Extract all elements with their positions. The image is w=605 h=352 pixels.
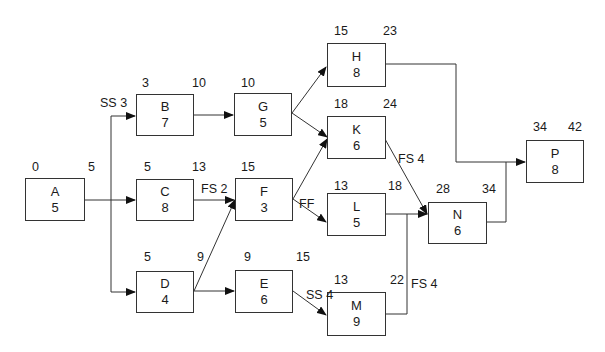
node-n-es: 28 xyxy=(436,182,450,196)
node-h-ef: 23 xyxy=(383,24,397,38)
node-b-name: B xyxy=(161,99,170,115)
node-c-es: 5 xyxy=(144,160,151,174)
arrow-h-p xyxy=(385,64,525,162)
node-e-duration: 6 xyxy=(260,292,267,308)
node-f-name: F xyxy=(260,184,268,200)
arrow-g-k xyxy=(292,113,327,137)
node-m-ef: 22 xyxy=(390,273,404,287)
node-c-ef: 13 xyxy=(192,160,206,174)
node-d-es: 5 xyxy=(144,250,151,264)
node-d: D 4 xyxy=(136,271,194,313)
node-p-ef: 42 xyxy=(568,120,582,134)
node-g-duration: 5 xyxy=(259,115,266,131)
node-h: H 8 xyxy=(327,43,386,87)
node-h-name: H xyxy=(352,49,361,65)
node-a: A 5 xyxy=(25,178,85,221)
node-l-name: L xyxy=(353,199,360,215)
node-d-name: D xyxy=(160,276,169,292)
arrow-g-h xyxy=(292,67,326,113)
node-m-duration: 9 xyxy=(353,314,360,330)
node-k-name: K xyxy=(352,122,361,138)
node-c-duration: 8 xyxy=(161,200,168,216)
node-b-ef: 10 xyxy=(192,76,206,90)
node-d-duration: 4 xyxy=(161,292,168,308)
node-d-ef: 9 xyxy=(197,250,204,264)
node-h-es: 15 xyxy=(334,24,348,38)
node-n-name: N xyxy=(453,207,462,223)
node-p-es: 34 xyxy=(533,120,547,134)
node-f-duration: 3 xyxy=(260,200,267,216)
node-f: F 3 xyxy=(235,178,293,221)
node-h-duration: 8 xyxy=(353,65,360,81)
link-label-f-l: FF xyxy=(299,197,314,211)
node-a-es: 0 xyxy=(32,160,39,174)
node-l-es: 13 xyxy=(334,179,348,193)
node-g-name: G xyxy=(258,99,268,115)
arrow-d-f xyxy=(194,200,235,291)
link-label-m-n: FS 4 xyxy=(411,277,437,291)
node-b: B 7 xyxy=(136,94,194,136)
node-k: K 6 xyxy=(327,116,386,159)
node-l: L 5 xyxy=(327,193,386,236)
node-c: C 8 xyxy=(136,179,194,221)
node-k-ef: 24 xyxy=(383,97,397,111)
link-label-k-n: FS 4 xyxy=(398,152,424,166)
node-m-es: 13 xyxy=(334,273,348,287)
node-m-name: M xyxy=(351,298,362,314)
arrow-f-k xyxy=(293,139,327,199)
node-a-ef: 5 xyxy=(88,160,95,174)
node-e: E 6 xyxy=(235,270,293,313)
node-n-duration: 6 xyxy=(454,223,461,239)
node-l-ef: 18 xyxy=(388,179,402,193)
node-e-es: 9 xyxy=(244,250,251,264)
node-a-duration: 5 xyxy=(51,200,58,216)
node-m: M 9 xyxy=(327,292,386,336)
link-label-a-b: SS 3 xyxy=(100,96,127,110)
node-e-ef: 15 xyxy=(296,250,310,264)
node-b-duration: 7 xyxy=(161,115,168,131)
node-a-name: A xyxy=(51,184,60,200)
link-label-e-m: SS 4 xyxy=(306,288,333,302)
link-label-c-f: FS 2 xyxy=(201,182,227,196)
node-g-es: 10 xyxy=(241,76,255,90)
node-k-duration: 6 xyxy=(353,138,360,154)
node-p-name: P xyxy=(551,146,560,162)
node-k-es: 18 xyxy=(334,97,348,111)
node-p: P 8 xyxy=(526,140,584,183)
node-c-name: C xyxy=(160,184,169,200)
node-b-es: 3 xyxy=(142,76,149,90)
node-g: G 5 xyxy=(234,93,292,136)
node-p-duration: 8 xyxy=(551,162,558,178)
node-n-ef: 34 xyxy=(482,182,496,196)
node-l-duration: 5 xyxy=(353,215,360,231)
precedence-network-diagram: A 5 0 5 B 7 3 10 C 8 5 13 D 4 5 9 G 5 10… xyxy=(0,0,605,352)
arrow-k-n xyxy=(385,139,427,214)
arrow-m-n xyxy=(385,214,407,314)
connector-lines xyxy=(0,0,605,352)
node-f-es: 15 xyxy=(241,160,255,174)
node-n: N 6 xyxy=(428,202,487,244)
node-e-name: E xyxy=(260,276,269,292)
